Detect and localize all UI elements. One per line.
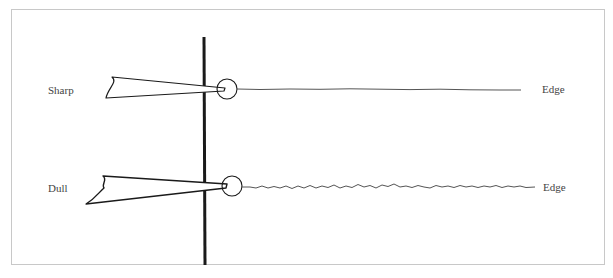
sharp-edge-line (237, 89, 521, 90)
sharp-blade-icon (106, 77, 225, 98)
dull-label: Dull (48, 182, 68, 194)
dull-edge-label: Edge (543, 181, 566, 193)
sharp-label: Sharp (48, 84, 74, 96)
vertical-reference-line (204, 37, 205, 265)
sharp-edge-label: Edge (542, 83, 565, 95)
blade-edge-diagram (0, 0, 613, 278)
dull-edge-line (241, 184, 535, 189)
